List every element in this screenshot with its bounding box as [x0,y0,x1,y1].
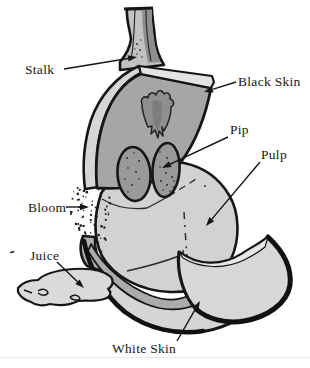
bloom-dot [93,224,95,226]
bloom-dot [98,200,100,202]
bloom-dot [77,223,79,225]
bloom-dot [78,227,80,229]
bloom-dot [98,207,99,208]
bloom-dot [73,191,74,192]
bloom-dot [90,214,92,216]
bloom-dot [91,204,93,206]
label-bloom: Bloom [28,200,66,215]
label-stalk: Stalk [25,62,54,77]
bloom-dot [83,189,86,192]
label-black-skin: Black Skin [238,74,301,89]
label-pulp: Pulp [261,147,287,162]
bloom-dot [82,216,84,218]
bloom-dot [108,212,109,213]
label-juice: Juice [30,248,59,263]
bloom-dot [71,198,73,200]
bloom-arrowhead-icon [80,204,89,210]
bloom-dot [79,224,82,227]
bloom-dot [94,228,95,229]
stray-mark [10,251,15,253]
bloom-dot [81,203,82,204]
bloom-dot [103,226,105,228]
bloom-dot [85,196,86,197]
bloom-dot [82,196,84,198]
bloom-dot [90,219,92,221]
bloom-dot [100,225,103,228]
bloom-dot [100,192,102,194]
bloom-dot [84,188,85,189]
bloom-dot [79,189,81,191]
juice-group [18,269,113,306]
bloom-dot [77,199,79,201]
bloom-dot [104,188,106,190]
bloom-dot [77,210,79,212]
bloom-dot [98,242,99,243]
bloom-dot [90,222,92,224]
bloom-dot [105,219,107,221]
bloom-dot [95,206,97,208]
bloom-dot [106,205,108,207]
bloom-dot [91,210,92,211]
bloom-dot [83,210,84,211]
pulp-dot [204,185,206,187]
bloom-dot [95,221,96,222]
stalk-leader-line [64,59,128,70]
label-pip: Pip [230,122,249,137]
bloom-dot [100,237,101,238]
bloom-dot [92,201,93,202]
black-skin-leader-line [213,82,236,89]
bloom-dot [109,202,111,204]
bloom-dot [104,209,106,211]
bloom-dot [107,213,109,215]
bloom-dot [82,225,84,227]
bloom-dot [108,197,110,199]
stalk-group [120,8,164,70]
diagram-canvas: StalkBlack SkinPipPulpBloomJuiceWhite Sk… [0,0,310,368]
label-white-skin: White Skin [112,341,176,356]
juice-puddle-shape [18,269,113,306]
bloom-dot [102,189,104,191]
bloom-dot [77,193,80,196]
callout-black-skin: Black Skin [204,74,301,92]
bloom-dot [97,234,100,237]
bloom-dot [105,213,107,215]
bloom-dot [98,189,100,191]
grape-anatomy-diagram: StalkBlack SkinPipPulpBloomJuiceWhite Sk… [0,0,310,368]
bloom-dot [70,213,72,215]
stalk-cut-top-line [124,8,153,9]
bloom-dot [90,232,92,234]
bloom-dot [97,216,98,217]
callout-bloom: Bloom [28,200,89,215]
bloom-dot [75,223,78,226]
bloom-dot [84,231,86,233]
bloom-dot [77,187,79,189]
bloom-dot [101,250,103,252]
bloom-dot [85,191,88,194]
bloom-dot [105,239,107,241]
